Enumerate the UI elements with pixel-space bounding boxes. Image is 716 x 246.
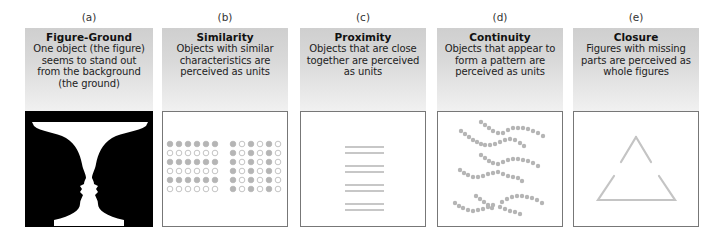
panel-letter: (a)	[25, 9, 153, 28]
panel-proximity: (c) Proximity Objects that are close tog…	[300, 9, 426, 227]
panel-continuity: (d) Continuity Objects that appear to fo…	[437, 9, 563, 227]
panel-letter: (e)	[573, 9, 699, 28]
panel-description: Figures with missing parts are perceived…	[573, 43, 699, 78]
paired-lines-icon	[301, 112, 427, 228]
wavy-dots-icon	[438, 112, 564, 228]
panel-description: Objects that are close together are perc…	[300, 43, 426, 78]
panel-title: Closure	[573, 31, 699, 43]
panel-header: Figure-Ground One object (the figure) se…	[25, 28, 153, 111]
panel-header: Similarity Objects with similar characte…	[162, 28, 288, 111]
panel-title: Continuity	[437, 31, 563, 43]
panel-similarity: (b) Similarity Objects with similar char…	[162, 9, 288, 227]
panel-letter: (b)	[162, 9, 288, 28]
figure-ground-illustration	[25, 111, 153, 227]
similarity-illustration	[162, 111, 288, 227]
panel-description: Objects with similar characteristics are…	[162, 43, 288, 78]
panel-title: Figure-Ground	[25, 31, 153, 43]
panel-title: Proximity	[300, 31, 426, 43]
panel-closure: (e) Closure Figures with missing parts a…	[573, 9, 699, 227]
panel-header: Proximity Objects that are close togethe…	[300, 28, 426, 111]
panel-title: Similarity	[162, 31, 288, 43]
panel-letter: (c)	[300, 9, 426, 28]
dot-grid-icon	[163, 112, 289, 228]
panel-header: Continuity Objects that appear to form a…	[437, 28, 563, 111]
panel-description: Objects that appear to form a pattern ar…	[437, 43, 563, 78]
closure-illustration	[573, 111, 699, 227]
vase-faces-icon	[26, 112, 154, 228]
panel-figure-ground: (a) Figure-Ground One object (the figure…	[25, 9, 153, 227]
proximity-illustration	[300, 111, 426, 227]
panel-header: Closure Figures with missing parts are p…	[573, 28, 699, 111]
broken-triangle-icon	[574, 112, 700, 228]
continuity-illustration	[437, 111, 563, 227]
panel-letter: (d)	[437, 9, 563, 28]
panel-description: One object (the figure) seems to stand o…	[25, 43, 153, 89]
